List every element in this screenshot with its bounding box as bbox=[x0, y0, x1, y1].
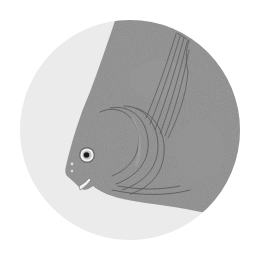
fish-artwork bbox=[0, 0, 259, 259]
eye bbox=[79, 147, 95, 163]
fish-illustration: fish illustration bbox=[0, 0, 259, 259]
nostril bbox=[71, 163, 74, 166]
pupil bbox=[84, 152, 90, 158]
nostril bbox=[71, 170, 74, 173]
